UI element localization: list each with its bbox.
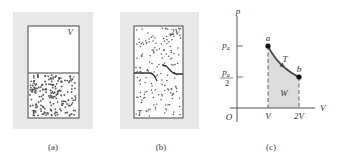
gas-molecule [66,112,68,114]
tick-label-pa: pa [221,40,230,51]
gas-molecule [40,108,42,110]
gas-molecule [55,115,57,117]
gas-molecule [156,49,158,51]
gas-molecule [52,84,54,86]
gas-molecule [71,91,73,93]
gas-molecule [166,80,168,82]
gas-molecule [139,80,141,82]
point-b [296,74,301,79]
gas-molecule [57,93,59,95]
gas-molecule [147,32,149,34]
gas-molecule [179,114,181,116]
gas-molecule [166,39,168,41]
gas-molecule [72,100,74,102]
gas-molecule [164,90,166,92]
gas-molecule [51,74,53,76]
gas-molecule [136,58,138,60]
gas-molecule [156,103,158,105]
gas-molecule [64,106,66,108]
gas-molecule [63,100,65,102]
gas-molecule [54,113,56,115]
gas-molecule [33,83,35,85]
gas-molecule [151,83,153,85]
gas-molecule [161,57,163,59]
gas-molecule [61,86,63,88]
gas-molecule [142,42,144,44]
gas-molecule [153,97,155,99]
gas-molecule [66,103,68,105]
gas-molecule [172,64,174,66]
gas-molecule [55,76,57,78]
gas-molecule [138,41,140,43]
gas-molecule [56,83,58,85]
gas-molecule [152,35,154,37]
volume-label: 2V [170,27,182,37]
gas-molecule [72,102,74,104]
gas-molecule [145,110,147,112]
gas-molecule [153,51,155,53]
caption-b: (b) [156,142,167,152]
tick-label-v: V [265,111,272,121]
gas-molecule [172,98,174,100]
gas-molecule [165,28,167,30]
gas-molecule [52,76,54,78]
gas-molecule [166,109,168,111]
gas-molecule [57,101,59,103]
gas-molecule [178,54,180,56]
gas-molecule [71,88,73,90]
gas-molecule [73,114,75,116]
gas-molecule [61,101,63,103]
gas-molecule [65,112,67,114]
gas-molecule [140,83,142,85]
gas-molecule [161,79,163,81]
tick-label-2v: 2V [294,111,306,121]
gas-molecule [173,111,175,113]
gas-molecule [144,91,146,93]
gas-molecule [161,93,163,95]
gas-molecule [144,97,146,99]
gas-molecule [53,103,55,105]
gas-molecule [47,75,49,77]
gas-molecule [36,83,38,85]
gas-molecule [163,38,165,40]
gas-molecule [170,58,172,60]
gas-molecule [30,80,32,82]
gas-molecule [58,77,60,79]
gas-molecule [30,84,32,86]
gas-molecule [41,84,43,86]
gas-molecule [159,48,161,50]
gas-molecule [176,88,178,90]
gas-molecule [39,96,41,98]
gas-molecule [71,85,73,87]
gas-molecule [180,37,182,39]
gas-molecule [175,86,177,88]
gas-molecule [36,88,38,90]
gas-molecule [57,80,59,82]
gas-molecule [42,106,44,108]
gas-molecule [163,50,165,52]
gas-molecule [52,96,54,98]
gas-molecule [171,57,173,59]
gas-molecule [149,108,151,110]
gas-molecule [61,81,63,83]
gas-molecule [50,110,52,112]
gas-molecule [174,77,176,79]
gas-molecule [141,43,143,45]
gas-molecule [152,40,154,42]
gas-molecule [171,52,173,54]
gas-molecule [177,47,179,49]
gas-molecule [32,85,34,87]
gas-molecule [166,43,168,45]
gas-molecule [166,53,168,55]
gas-molecule [49,102,51,104]
gas-molecule [164,40,166,42]
gas-molecule [69,115,71,117]
gas-molecule [42,94,44,96]
gas-molecule [34,88,36,90]
gas-molecule [162,28,164,30]
point-b-label: b [297,64,302,74]
gas-molecule [158,64,160,66]
gas-molecule [67,99,69,101]
gas-molecule [74,95,76,97]
gas-molecule [153,49,155,51]
